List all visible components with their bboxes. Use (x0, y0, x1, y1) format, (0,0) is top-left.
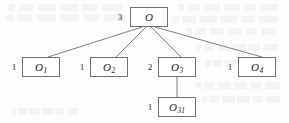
node-o31[interactable]: O31 (158, 97, 196, 117)
node-root[interactable]: O (130, 7, 168, 27)
node-o2-label: O2 (103, 62, 115, 73)
weight-o1: 1 (12, 63, 16, 72)
weight-root: 3 (118, 13, 122, 22)
edge-root-to-o3 (151, 27, 181, 57)
edge-root-to-o1 (48, 27, 142, 57)
node-o4-label: O4 (251, 62, 263, 73)
node-o31-label: O31 (169, 102, 185, 113)
node-o4[interactable]: O4 (238, 57, 276, 77)
node-o2[interactable]: O2 (90, 57, 128, 77)
node-o1[interactable]: O1 (22, 57, 60, 77)
weight-o31: 1 (148, 103, 152, 112)
weight-o3: 2 (148, 63, 152, 72)
node-o3[interactable]: O3 (158, 57, 196, 77)
edge-root-to-o2 (116, 27, 146, 57)
node-root-label: O (145, 12, 153, 23)
node-o3-label: O3 (171, 62, 183, 73)
weight-o4: 1 (228, 63, 232, 72)
edge-root-to-o4 (155, 27, 262, 57)
weight-o2: 1 (80, 63, 84, 72)
node-o1-label: O1 (35, 62, 47, 73)
tree-diagram-figure: O 3 O1 1 O2 1 O3 2 O4 1 O31 1 (0, 0, 289, 123)
